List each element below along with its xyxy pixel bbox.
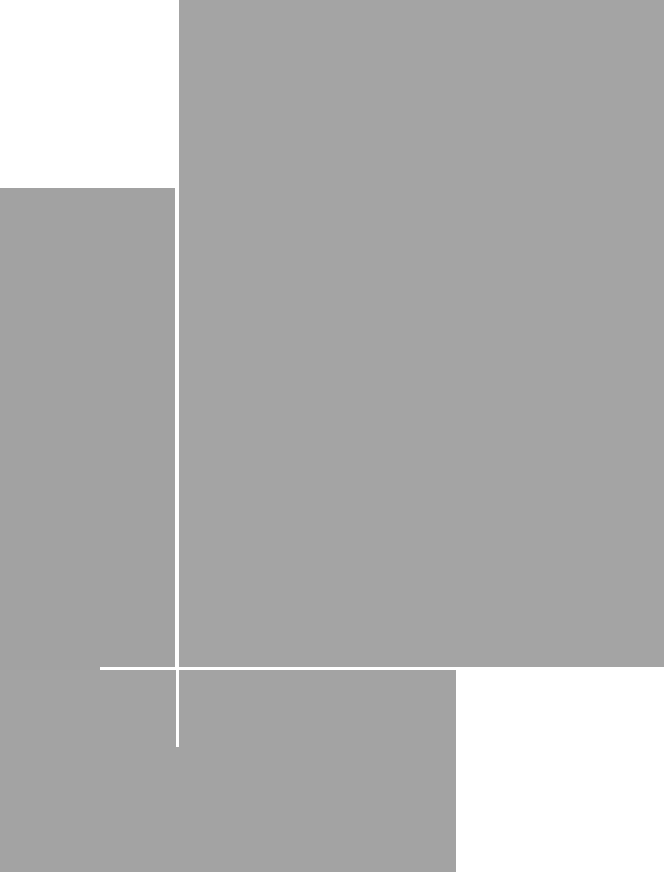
horizontal-white-line — [100, 667, 664, 670]
vertical-white-line — [176, 0, 179, 747]
lower-gray-band — [0, 670, 456, 872]
large-gray-rectangle — [179, 0, 664, 667]
bottom-right-white-area — [456, 668, 664, 872]
